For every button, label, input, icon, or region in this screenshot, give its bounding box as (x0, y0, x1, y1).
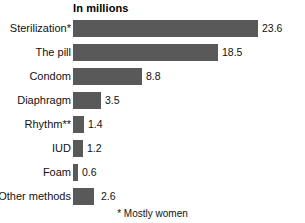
value-label: 1.2 (87, 142, 102, 155)
value-label: 18.5 (222, 46, 242, 59)
bar-chart: In millions Sterilization* 23.6 The pill… (0, 0, 305, 223)
value-label: 3.5 (105, 94, 120, 107)
category-label: The pill (0, 46, 71, 59)
value-label: 23.6 (262, 22, 282, 35)
bar-sterilization (73, 20, 258, 37)
table-row: Diaphragm 3.5 (0, 92, 305, 116)
category-label: Diaphragm (0, 94, 71, 107)
table-row: Condom 8.8 (0, 68, 305, 92)
chart-title: In millions (73, 1, 129, 15)
footnote-mostly-women: * Mostly women (0, 208, 305, 220)
table-row: Foam 0.6 (0, 164, 305, 188)
category-label: Foam (0, 166, 71, 179)
bar-other-methods (73, 188, 94, 205)
value-label: 2.6 (101, 190, 116, 203)
category-label: Condom (0, 70, 71, 83)
table-row: Sterilization* 23.6 (0, 20, 305, 44)
category-label: IUD (0, 142, 71, 155)
value-label: 8.8 (146, 70, 161, 83)
bar-the-pill (73, 44, 218, 61)
chart-footnotes: * Mostly women (0, 208, 305, 220)
table-row: IUD 1.2 (0, 140, 305, 164)
bar-condom (73, 68, 142, 85)
bar-rhythm (73, 116, 84, 133)
plot-area: Sterilization* 23.6 The pill 18.5 Condom… (0, 20, 305, 212)
value-label: 0.6 (82, 166, 97, 179)
bar-diaphragm (73, 92, 101, 109)
category-label: Sterilization* (0, 22, 71, 35)
value-label: 1.4 (88, 118, 103, 131)
bar-foam (73, 164, 78, 181)
table-row: The pill 18.5 (0, 44, 305, 68)
category-label: Other methods (0, 190, 71, 203)
category-label: Rhythm** (0, 118, 71, 131)
bar-iud (73, 140, 83, 157)
table-row: Rhythm** 1.4 (0, 116, 305, 140)
